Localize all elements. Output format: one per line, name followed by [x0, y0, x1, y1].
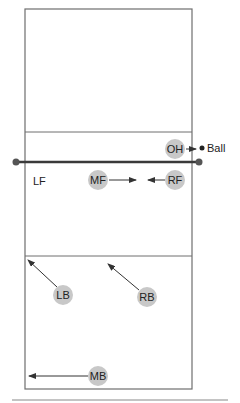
ball-label: Ball — [207, 142, 225, 154]
player-rb-label: RB — [139, 291, 154, 303]
rb-arrow — [108, 264, 139, 290]
net-post-left — [13, 159, 20, 166]
player-mb: MB — [88, 366, 108, 386]
volleyball-court-diagram: Ball LF OH MF RF LB RB MB — [0, 0, 240, 403]
player-mf-label: MF — [90, 174, 106, 186]
court-boundary — [25, 9, 192, 389]
player-rf: RF — [165, 170, 185, 190]
player-mb-label: MB — [90, 370, 107, 382]
net-post-right — [196, 159, 203, 166]
lf-label: LF — [33, 175, 46, 187]
lb-arrow — [28, 260, 57, 287]
player-oh-label: OH — [167, 143, 184, 155]
player-lb: LB — [53, 285, 73, 305]
player-rf-label: RF — [168, 174, 183, 186]
player-mf: MF — [88, 170, 108, 190]
ball-icon — [200, 146, 205, 151]
player-lb-label: LB — [56, 289, 69, 301]
player-oh: OH — [165, 139, 185, 159]
player-rb: RB — [137, 287, 157, 307]
